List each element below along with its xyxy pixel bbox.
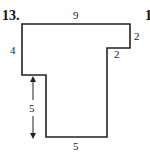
label-left-lower: 5 [29, 102, 35, 114]
label-left-upper: 4 [10, 44, 16, 56]
label-right-upper: 2 [134, 30, 140, 42]
next-problem-number: 1 [145, 8, 150, 23]
shape-outline [22, 24, 130, 137]
label-step-horizontal: 2 [114, 48, 120, 60]
label-top: 9 [73, 9, 79, 21]
problem-number: 13. [2, 8, 20, 23]
geometry-figure: 13. 1 9 2 2 4 5 5 [0, 0, 150, 156]
label-bottom: 5 [73, 140, 79, 152]
